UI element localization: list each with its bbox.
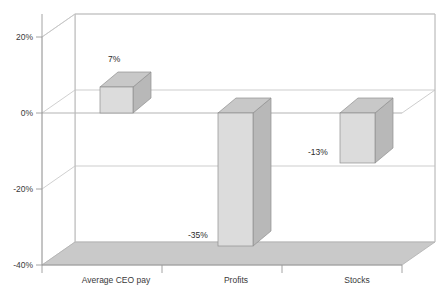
x-axis-ticks (42, 265, 402, 273)
bar-value-label-profits: -35% (188, 230, 208, 240)
chart-left-wall (42, 14, 75, 265)
bar-value-label-stocks: -13% (308, 147, 328, 157)
y-tick-label-neg20: -20% (13, 184, 33, 194)
chart-container: 20% 0% -20% -40% 7% (0, 0, 446, 297)
y-tick-label-neg40: -40% (13, 260, 33, 270)
bar-side-face (253, 98, 271, 246)
y-axis-ticks (36, 37, 42, 265)
bar-stocks[interactable] (340, 98, 393, 163)
bar-front-face (340, 113, 375, 163)
y-tick-label-0: 0% (21, 108, 34, 118)
bar-profits[interactable] (218, 98, 271, 246)
bar-front-face (218, 113, 253, 246)
bar-value-label-average-ceo-pay: 7% (108, 54, 121, 64)
x-tick-label-profits: Profits (224, 275, 248, 285)
bar-front-face (100, 87, 133, 113)
x-tick-label-stocks: Stocks (344, 275, 370, 285)
y-tick-label-20: 20% (16, 32, 33, 42)
x-tick-label-average-ceo-pay: Average CEO pay (82, 275, 151, 285)
bar-chart-3d: 20% 0% -20% -40% 7% (0, 0, 446, 297)
